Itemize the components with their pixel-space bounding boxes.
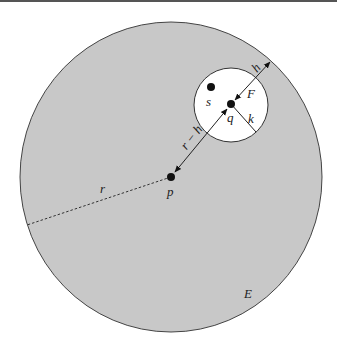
label-q: q (227, 110, 234, 125)
point-q (227, 100, 235, 108)
label-k: k (248, 111, 254, 126)
label-p: p (166, 184, 174, 199)
label-s: s (206, 94, 211, 109)
geometry-figure: s q F k h p r r − h E (0, 0, 337, 348)
point-s (207, 83, 215, 91)
diagram-canvas: s q F k h p r r − h E (0, 0, 337, 348)
label-F: F (246, 86, 256, 101)
label-E: E (243, 286, 252, 301)
point-p (167, 173, 175, 181)
